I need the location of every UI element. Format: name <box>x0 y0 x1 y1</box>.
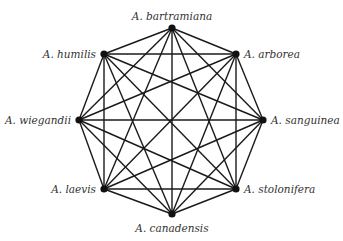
node-canadensis <box>168 210 175 217</box>
node-humilis <box>100 50 107 57</box>
edge-bartramiana-laevis <box>104 28 172 189</box>
edge-bartramiana-humilis <box>104 28 172 54</box>
node-wiegandii <box>75 116 82 123</box>
edge-canadensis-laevis <box>104 189 172 214</box>
node-laevis <box>100 185 107 192</box>
label-wiegandii: A. wiegandii <box>5 114 71 126</box>
label-canadensis: A. canadensis <box>135 222 208 234</box>
label-arborea: A. arborea <box>244 48 300 60</box>
edge-laevis-wiegandii <box>79 120 104 189</box>
complete-graph-diagram: A. bartramiana A. arborea A. sanguinea A… <box>0 0 343 241</box>
label-bartramiana: A. bartramiana <box>132 10 212 22</box>
label-sanguinea: A. sanguinea <box>271 114 340 126</box>
node-sanguinea <box>259 116 266 123</box>
edge-wiegandii-humilis <box>79 54 104 120</box>
label-stolonifera: A. stolonifera <box>244 183 315 195</box>
node-arborea <box>232 50 239 57</box>
edge-sanguinea-laevis <box>104 120 263 189</box>
node-stolonifera <box>232 185 239 192</box>
edge-stolonifera-canadensis <box>172 189 236 214</box>
label-laevis: A. laevis <box>51 183 96 195</box>
label-humilis: A. humilis <box>43 48 96 60</box>
edge-bartramiana-arborea <box>172 28 236 54</box>
node-bartramiana <box>168 24 175 31</box>
